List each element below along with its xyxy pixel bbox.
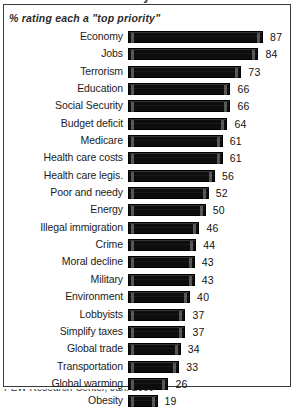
bar bbox=[128, 326, 185, 338]
bar-category-label: Health care costs bbox=[4, 151, 123, 163]
bar-value-label: 56 bbox=[222, 170, 234, 182]
bar-highlight-right bbox=[217, 154, 220, 164]
bar-highlight-right bbox=[200, 206, 203, 216]
bar-value-label: 64 bbox=[234, 118, 246, 130]
bar-highlight-left bbox=[131, 33, 134, 43]
bar bbox=[128, 239, 196, 251]
bar-row: Transportation33 bbox=[4, 359, 292, 376]
bar-highlight-left bbox=[131, 241, 134, 251]
bar-track: 87 bbox=[128, 31, 292, 43]
bar bbox=[128, 204, 206, 216]
bar-highlight-left bbox=[131, 154, 134, 164]
bar-highlight-right bbox=[257, 33, 260, 43]
bar-highlight-right bbox=[175, 345, 178, 355]
bar-highlight-left bbox=[131, 137, 134, 147]
bar-highlight-left bbox=[131, 102, 134, 112]
bar bbox=[128, 135, 223, 147]
bar-row: Simplify taxes37 bbox=[4, 324, 292, 341]
bar-row: Military43 bbox=[4, 272, 292, 289]
bar bbox=[128, 309, 185, 321]
bar-row: Budget deficit64 bbox=[4, 116, 292, 133]
bar-category-label: Transportation bbox=[4, 360, 123, 372]
bar-value-label: 40 bbox=[197, 291, 209, 303]
bar-track: 66 bbox=[128, 100, 292, 112]
bar bbox=[128, 222, 199, 234]
bar-category-label: Education bbox=[4, 82, 123, 94]
bar-category-label: Global trade bbox=[4, 342, 123, 354]
bar-value-label: 46 bbox=[206, 222, 218, 234]
bar-category-label: Economy bbox=[4, 30, 123, 42]
bar-highlight-left bbox=[131, 189, 134, 199]
bar-value-label: 34 bbox=[188, 343, 200, 355]
bar-track: 50 bbox=[128, 204, 292, 216]
bar-row: Crime44 bbox=[4, 237, 292, 254]
bar bbox=[128, 100, 230, 112]
bar-value-label: 37 bbox=[192, 309, 204, 321]
bar-highlight-left bbox=[131, 258, 134, 268]
bar-track: 46 bbox=[128, 222, 292, 234]
bar-value-label: 66 bbox=[237, 100, 249, 112]
clipped-heading-text: Public's Policy Priorities bbox=[60, 0, 210, 3]
bar-row: Health care legis.56 bbox=[4, 168, 292, 185]
bar-category-label: Military bbox=[4, 273, 123, 285]
bar-value-label: 66 bbox=[237, 83, 249, 95]
bar-highlight-right bbox=[189, 258, 192, 268]
bar-row: Health care costs61 bbox=[4, 150, 292, 167]
bar-highlight-left bbox=[131, 68, 134, 78]
bar-highlight-right bbox=[235, 68, 238, 78]
bar-category-label: Health care legis. bbox=[4, 169, 123, 181]
bar-highlight-right bbox=[173, 363, 176, 373]
bar-track: 56 bbox=[128, 170, 292, 182]
bar-highlight-right bbox=[221, 120, 224, 130]
bar-row: Illegal immigration46 bbox=[4, 220, 292, 237]
bar-highlight-left bbox=[131, 311, 134, 321]
bar-highlight-left bbox=[131, 85, 134, 95]
bar bbox=[128, 83, 230, 95]
bar-track: 33 bbox=[128, 361, 292, 373]
bar-value-label: 52 bbox=[216, 187, 228, 199]
bar bbox=[128, 170, 215, 182]
clipped-source-text: PEW Research Center, Jan. 2009 bbox=[4, 389, 154, 393]
bar-track: 66 bbox=[128, 83, 292, 95]
bar-track: 64 bbox=[128, 118, 292, 130]
bar-category-label: Simplify taxes bbox=[4, 325, 123, 337]
bar-highlight-right bbox=[190, 241, 193, 251]
bar bbox=[128, 31, 263, 43]
bar-category-label: Jobs bbox=[4, 47, 123, 59]
bar-value-label: 61 bbox=[230, 135, 242, 147]
bar-category-label: Environment bbox=[4, 290, 123, 302]
bar-value-label: 43 bbox=[202, 274, 214, 286]
bar-track: 43 bbox=[128, 274, 292, 286]
bar-row: Terrorism73 bbox=[4, 64, 292, 81]
bar-highlight-left bbox=[131, 328, 134, 338]
bar-category-label: Budget deficit bbox=[4, 117, 123, 129]
bar-track: 34 bbox=[128, 343, 292, 355]
bar-row: Medicare61 bbox=[4, 133, 292, 150]
bar-value-label: 87 bbox=[270, 31, 282, 43]
bar-row: Global trade34 bbox=[4, 341, 292, 358]
bar-highlight-left bbox=[131, 50, 134, 60]
chart-subtitle: % rating each a "top priority" bbox=[9, 12, 160, 24]
bar-highlight-left bbox=[131, 206, 134, 216]
bar-track: 37 bbox=[128, 309, 292, 321]
bar-highlight-right bbox=[252, 50, 255, 60]
bar bbox=[128, 256, 195, 268]
bar-highlight-left bbox=[131, 363, 134, 373]
bar-highlight-left bbox=[131, 293, 134, 303]
bar-value-label: 43 bbox=[202, 256, 214, 268]
bar-category-label: Poor and needy bbox=[4, 186, 123, 198]
bar-value-label: 61 bbox=[230, 152, 242, 164]
bar-value-label: 73 bbox=[248, 66, 260, 78]
bar-row: Jobs84 bbox=[4, 46, 292, 63]
bar-track: 37 bbox=[128, 326, 292, 338]
bar-track: 73 bbox=[128, 66, 292, 78]
bar-value-label: 84 bbox=[265, 48, 277, 60]
bar bbox=[128, 118, 227, 130]
bar-category-label: Moral decline bbox=[4, 255, 123, 267]
bar-track: 43 bbox=[128, 256, 292, 268]
bar-track: 61 bbox=[128, 152, 292, 164]
bar-category-label: Medicare bbox=[4, 134, 123, 146]
bar-highlight-left bbox=[131, 172, 134, 182]
bar-category-label: Energy bbox=[4, 203, 123, 215]
bar bbox=[128, 48, 258, 60]
